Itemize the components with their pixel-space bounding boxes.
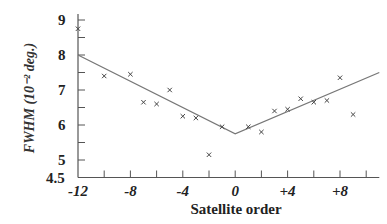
- x-tick-label: 0: [231, 183, 239, 199]
- x-axis-label: Satellite order: [190, 201, 282, 217]
- y-tick-label: 6: [58, 117, 66, 133]
- fit-polyline: [78, 55, 379, 134]
- y-tick-label: 4.5: [46, 170, 65, 186]
- x-marker: [154, 102, 158, 106]
- x-marker: [102, 74, 106, 78]
- fwhm-chart: 987654.5-12-8-40+4+8 FWHM (10⁻² deg.) Sa…: [0, 0, 387, 224]
- x-marker: [338, 76, 342, 80]
- x-marker: [194, 116, 198, 120]
- x-marker: [141, 100, 145, 104]
- x-tick-label: +8: [332, 183, 349, 199]
- x-marker: [325, 98, 329, 102]
- y-tick-label: 5: [58, 152, 66, 168]
- y-tick-label: 8: [58, 47, 66, 63]
- x-marker: [351, 112, 355, 116]
- x-marker: [299, 97, 303, 101]
- x-tick-label: -12: [68, 183, 88, 199]
- x-marker: [259, 130, 263, 134]
- x-marker: [181, 114, 185, 118]
- x-tick-label: -4: [177, 183, 190, 199]
- x-marker: [207, 153, 211, 157]
- fit-line: [78, 55, 379, 134]
- x-marker: [168, 88, 172, 92]
- x-tick-label: +4: [280, 183, 297, 199]
- data-points: [76, 27, 356, 157]
- y-tick-label: 7: [58, 82, 66, 98]
- x-tick-label: -8: [124, 183, 137, 199]
- y-tick-label: 9: [58, 12, 66, 28]
- chart-axes: [78, 14, 379, 178]
- y-axis-label: FWHM (10⁻² deg.): [22, 43, 38, 154]
- x-marker: [272, 109, 276, 113]
- x-marker: [128, 72, 132, 76]
